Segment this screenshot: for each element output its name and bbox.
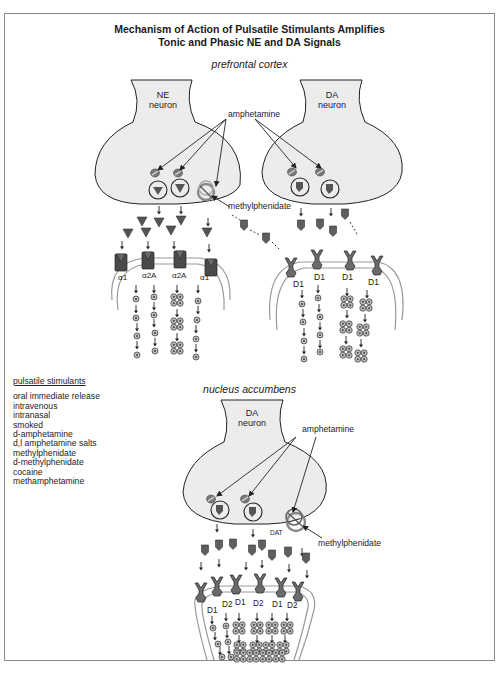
da-neuron-pfc: DA neuron bbox=[262, 80, 402, 204]
methylphenidate-label-nac: methylphenidate bbox=[318, 538, 381, 548]
amphetamine-label-pfc: amphetamine bbox=[228, 109, 280, 119]
diagram-canvas: NE neuron DA neuron amphetamine bbox=[0, 0, 499, 688]
receptor-label-d1: D1 bbox=[235, 598, 246, 607]
receptor-label-alpha2a: α2A bbox=[142, 271, 157, 280]
amphetamine-label-nac: amphetamine bbox=[302, 424, 354, 434]
ne-neuron-label: NE bbox=[157, 90, 170, 100]
receptor-label-alpha2a: α2A bbox=[172, 271, 187, 280]
da-neuron-nac-label: DA bbox=[246, 408, 259, 418]
da-postsynaptic-neuron-nac: D1 D2 D1 D2 D1 D2 bbox=[195, 574, 315, 662]
receptor-label-d1: D1 bbox=[368, 277, 379, 287]
da-postsynaptic-neuron-pfc: D1 D1 D1 D1 bbox=[270, 250, 403, 362]
ne-neuron: NE neuron bbox=[95, 80, 240, 204]
receptor-label-alpha1: α1 bbox=[118, 273, 128, 282]
receptor-label-d1: D1 bbox=[314, 272, 325, 282]
svg-text:neuron: neuron bbox=[149, 100, 177, 110]
svg-text:neuron: neuron bbox=[238, 418, 266, 428]
ne-postsynaptic-neuron: α1 α2A α2A α1 bbox=[112, 251, 231, 360]
receptor-label-d1: D1 bbox=[207, 606, 218, 615]
methylphenidate-label-pfc: methylphenidate bbox=[228, 201, 291, 211]
da-transmitters-nac bbox=[199, 524, 310, 579]
receptor-label-d1: D1 bbox=[293, 279, 304, 289]
receptor-label-alpha1: α1 bbox=[200, 273, 210, 282]
da-neuron-nac: DA neuron bbox=[183, 400, 326, 531]
svg-text:neuron: neuron bbox=[318, 100, 346, 110]
receptor-label-d2: D2 bbox=[253, 599, 264, 608]
ne-transmitters bbox=[120, 206, 212, 253]
receptor-label-d1: D1 bbox=[342, 272, 353, 282]
da-transmitters-pfc bbox=[232, 208, 358, 250]
receptor-label-d1: D1 bbox=[272, 600, 283, 609]
dat-label: DAT bbox=[270, 529, 283, 536]
receptor-label-d2: D2 bbox=[287, 601, 298, 610]
da-neuron-pfc-label: DA bbox=[326, 90, 339, 100]
receptor-label-d2: D2 bbox=[222, 600, 233, 609]
